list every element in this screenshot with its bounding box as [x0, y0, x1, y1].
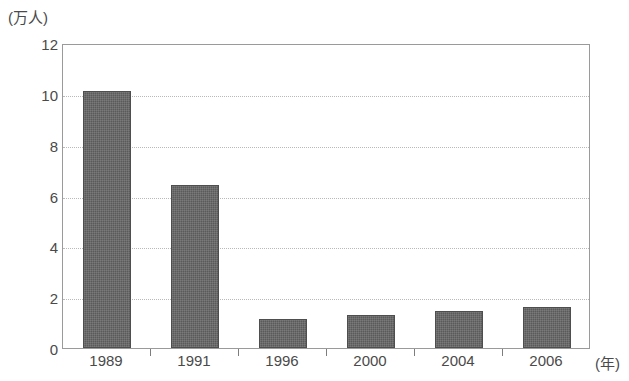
- y-axis-tick-label: 2: [18, 290, 58, 307]
- bar-2000: [347, 315, 396, 348]
- x-axis-tick-label: 2000: [353, 352, 386, 369]
- x-axis-tick-mark: [150, 349, 151, 356]
- gridline: [63, 96, 589, 97]
- chart-plot-area: [62, 44, 590, 349]
- x-axis-tick-mark: [238, 349, 239, 356]
- x-axis-unit-label: (年): [595, 352, 620, 373]
- bar-1991: [171, 185, 220, 348]
- bar-2004: [435, 311, 484, 348]
- x-axis-tick-label: 2004: [441, 352, 474, 369]
- gridline: [63, 147, 589, 148]
- x-axis-tick-mark: [414, 349, 415, 356]
- y-axis-tick-label: 0: [18, 341, 58, 358]
- y-axis-tick-label: 4: [18, 239, 58, 256]
- x-axis-tick-mark: [502, 349, 503, 356]
- gridline: [63, 248, 589, 249]
- bar-2006: [523, 307, 572, 348]
- x-axis-tick-label: 2006: [529, 352, 562, 369]
- bar-1989: [83, 91, 132, 348]
- x-axis-tick-mark: [326, 349, 327, 356]
- x-axis-tick-label: 1989: [89, 352, 122, 369]
- gridline: [63, 299, 589, 300]
- y-axis-tick-label: 12: [18, 36, 58, 53]
- x-axis-tick-label: 1991: [177, 352, 210, 369]
- gridline: [63, 198, 589, 199]
- y-axis-tick-label: 8: [18, 137, 58, 154]
- y-axis-tick-label: 6: [18, 188, 58, 205]
- x-axis-tick-label: 1996: [265, 352, 298, 369]
- y-axis-unit-label: (万人): [8, 6, 48, 27]
- bar-1996: [259, 319, 308, 348]
- y-axis-tick-label: 10: [18, 86, 58, 103]
